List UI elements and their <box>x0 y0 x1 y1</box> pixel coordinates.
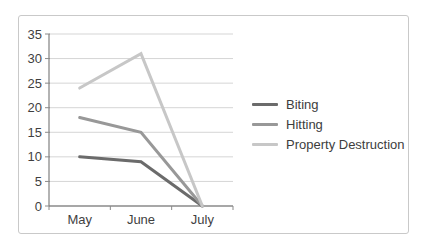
x-label-july: July <box>191 212 215 227</box>
y-tick-label-20: 20 <box>28 100 42 115</box>
legend-item-hitting: Hitting <box>252 114 405 134</box>
y-tick-label-10: 10 <box>28 149 42 164</box>
legend-label-property-destruction: Property Destruction <box>286 137 405 152</box>
chart-image: 05101520253035MayJuneJuly Biting Hitting… <box>0 0 425 247</box>
x-label-june: June <box>127 212 155 227</box>
legend-marker-property-destruction <box>252 143 278 146</box>
y-tick-label-0: 0 <box>35 199 42 214</box>
legend-label-hitting: Hitting <box>286 117 323 132</box>
y-tick-label-5: 5 <box>35 174 42 189</box>
y-tick-label-35: 35 <box>28 27 42 42</box>
legend-label-biting: Biting <box>286 97 319 112</box>
x-label-may: May <box>67 212 92 227</box>
chart-frame: 05101520253035MayJuneJuly Biting Hitting… <box>18 15 409 234</box>
y-tick-label-25: 25 <box>28 76 42 91</box>
y-tick-label-15: 15 <box>28 125 42 140</box>
legend-item-biting: Biting <box>252 94 405 114</box>
legend-marker-hitting <box>252 123 278 126</box>
legend-marker-biting <box>252 103 278 106</box>
legend: Biting Hitting Property Destruction <box>252 94 405 154</box>
legend-item-property-destruction: Property Destruction <box>252 134 405 154</box>
y-tick-label-30: 30 <box>28 51 42 66</box>
